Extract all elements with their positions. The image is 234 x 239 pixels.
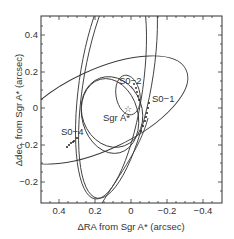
label-s01: S0−1 <box>152 93 174 104</box>
x-axis-title: ΔRA from Sgr A* (arcsec) <box>77 221 184 232</box>
x-tick-label: −0.4 <box>194 205 213 216</box>
orbit-wide <box>0 34 203 187</box>
y-tick-label: 0.4 <box>25 29 38 40</box>
y-tick-label: 0.2 <box>25 66 38 77</box>
x-tick-label: 0.4 <box>52 205 65 216</box>
label-s04: S0−4 <box>61 126 83 137</box>
label-sgra: Sgr A* <box>103 112 130 123</box>
s02-leader <box>131 86 134 90</box>
x-tick-label: −0.2 <box>158 205 177 216</box>
y-axis-title: Δdec. from Sgr A* (arcsec) <box>13 54 24 166</box>
label-s02: S0−2 <box>119 75 141 86</box>
y-tick-label: 0 <box>33 102 38 113</box>
x-tick-label: 0 <box>128 205 133 216</box>
y-tick-label: −0.2 <box>19 176 38 187</box>
orbit-chart: ☆ S0−2 S0−1 Sgr A* S0−4 <box>0 0 234 239</box>
x-tick-label: 0.2 <box>88 205 101 216</box>
orbit-s01-a <box>63 0 158 203</box>
